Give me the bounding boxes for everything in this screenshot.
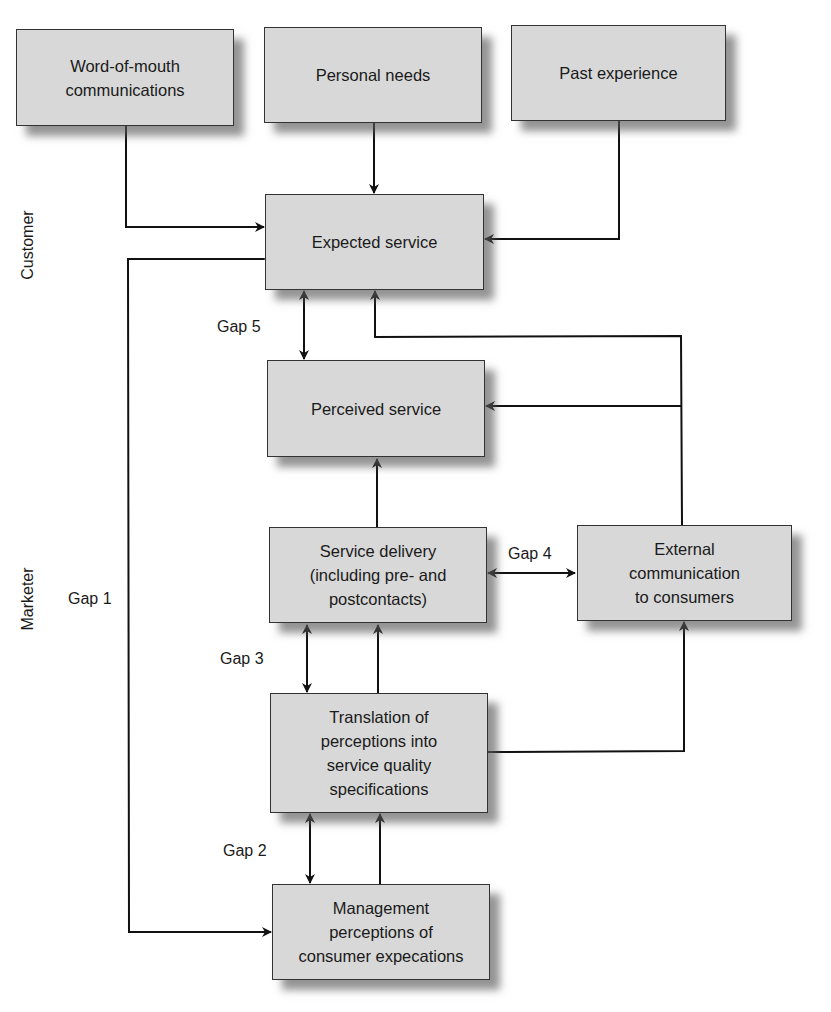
- box-service-delivery: Service delivery (including pre- and pos…: [269, 527, 487, 623]
- lane-label-marketer: Marketer: [19, 564, 37, 634]
- gap-5-label: Gap 5: [217, 318, 261, 336]
- gap-2-label: Gap 2: [223, 842, 267, 860]
- box-personal-needs: Personal needs: [264, 27, 482, 123]
- gap-4-label: Gap 4: [508, 545, 552, 563]
- box-word-of-mouth: Word-of-mouth communications: [16, 29, 234, 126]
- box-perceived-service: Perceived service: [267, 360, 485, 457]
- connector-lines: [0, 0, 831, 1012]
- box-expected-service: Expected service: [265, 194, 484, 290]
- box-translation: Translation of perceptions into service …: [270, 693, 488, 813]
- gap-3-label: Gap 3: [220, 650, 264, 668]
- box-past-experience: Past experience: [511, 25, 726, 121]
- box-management-perceptions: Management perceptions of consumer expec…: [272, 884, 490, 980]
- lane-label-customer: Customer: [19, 210, 37, 280]
- box-external-communication: External communication to consumers: [577, 525, 792, 621]
- gap-1-label: Gap 1: [68, 590, 112, 608]
